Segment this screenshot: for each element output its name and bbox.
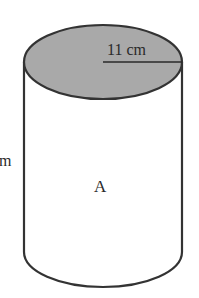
radius-label: 11 cm [107,41,147,58]
height-label: m [0,152,12,169]
cylinder-label: A [94,177,107,196]
cylinder-diagram: 11 cm m A [0,0,199,298]
